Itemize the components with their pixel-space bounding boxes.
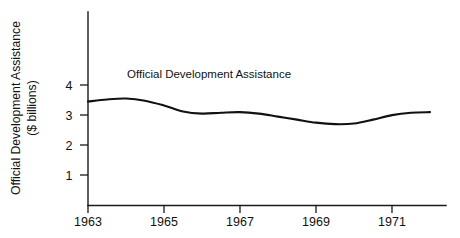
- y-tick-label-4: 4: [66, 79, 73, 93]
- x-tick-label-1965: 1965: [150, 215, 178, 229]
- y-axis-label: Official Development Assistance ($ billi…: [9, 21, 39, 195]
- y-axis-label-line1: Official Development Assistance: [9, 21, 23, 195]
- y-tick-label-3: 3: [66, 109, 73, 123]
- x-tick-label-1971: 1971: [378, 215, 406, 229]
- x-tick-label-1967: 1967: [226, 215, 254, 229]
- chart-figure: Official Development Assistance ($ billi…: [0, 0, 460, 238]
- data-series-line-official-development-assistance: [88, 99, 430, 125]
- y-tick-label-1: 1: [66, 169, 73, 183]
- x-axis-ticks: 1963 1965 1967 1969 1971: [74, 206, 406, 230]
- series-annotation-label: Official Development Assistance: [127, 68, 291, 80]
- y-tick-label-2: 2: [66, 139, 73, 153]
- x-tick-label-1963: 1963: [74, 215, 102, 229]
- y-axis-ticks: 4 3 2 1: [66, 79, 88, 183]
- line-chart-canvas: Official Development Assistance ($ billi…: [0, 0, 460, 238]
- x-tick-label-1969: 1969: [302, 215, 330, 229]
- y-axis-label-line2: ($ billions): [25, 80, 39, 136]
